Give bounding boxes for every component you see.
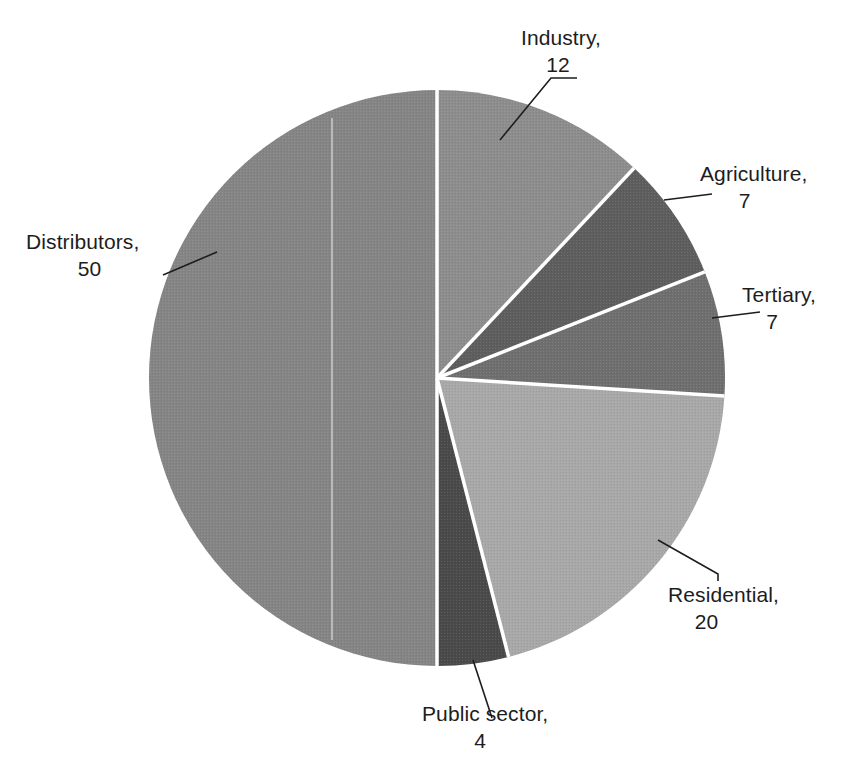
pie-label-industry-value: 12 xyxy=(521,51,601,78)
pie-label-agriculture-name: Agriculture, xyxy=(700,160,807,187)
pie-label-industry-name: Industry, xyxy=(521,24,601,51)
pie-label-agriculture-value: 7 xyxy=(700,187,807,214)
pie-label-industry: Industry, 12 xyxy=(521,24,601,78)
pie-label-distributors-name: Distributors, xyxy=(26,228,139,255)
pie-label-distributors: Distributors, 50 xyxy=(26,228,139,282)
pie-label-public-sector: Public sector, 4 xyxy=(422,700,548,754)
pie-label-residential-name: Residential, xyxy=(668,581,779,608)
pie-chart-figure: Industry, 12 Agriculture, 7 Tertiary, 7 … xyxy=(0,0,844,782)
pie-label-tertiary-name: Tertiary, xyxy=(742,281,816,308)
pie-chart-svg xyxy=(0,0,844,782)
pie-label-tertiary: Tertiary, 7 xyxy=(742,281,816,335)
pie-label-residential: Residential, 20 xyxy=(668,581,779,635)
pie-label-tertiary-value: 7 xyxy=(742,308,816,335)
pie-label-public-sector-name: Public sector, xyxy=(422,700,548,727)
pie-label-agriculture: Agriculture, 7 xyxy=(700,160,807,214)
pie-label-residential-value: 20 xyxy=(668,608,779,635)
pie-label-distributors-value: 50 xyxy=(26,255,139,282)
pie-label-public-sector-value: 4 xyxy=(422,727,548,754)
